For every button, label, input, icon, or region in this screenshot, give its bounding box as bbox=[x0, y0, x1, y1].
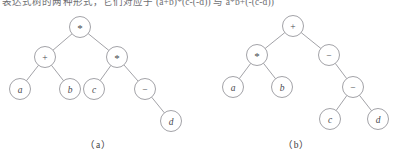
tree-edge bbox=[301, 33, 321, 49]
tree-node: d bbox=[161, 111, 182, 132]
tree-node-label: + bbox=[290, 22, 295, 32]
tree-node-label: − bbox=[326, 51, 331, 61]
tree-node: + bbox=[35, 47, 56, 68]
tree-node: * bbox=[247, 45, 268, 66]
tree-node: c bbox=[320, 109, 341, 130]
tree-node: a bbox=[223, 77, 244, 98]
figure-expression-trees: *+*abc−d （a） +*−ab−cd （b） bbox=[0, 7, 395, 162]
tree-diagram-a: *+*abc−d bbox=[0, 7, 197, 139]
tree-edge bbox=[124, 65, 138, 81]
tree-diagram-b: +*−ab−cd bbox=[198, 7, 395, 139]
tree-node-label: b bbox=[68, 85, 73, 95]
tree-node: a bbox=[10, 79, 31, 100]
tree-edge bbox=[263, 63, 275, 78]
tree-edge bbox=[152, 97, 165, 113]
tree-node-label: + bbox=[42, 53, 47, 63]
tree-node-label: * bbox=[254, 50, 260, 62]
tree-node-label: * bbox=[77, 22, 83, 34]
tree-node-label: d bbox=[169, 117, 174, 127]
tree-edge bbox=[336, 96, 347, 111]
tree-node: b bbox=[272, 77, 293, 98]
tree-node: b bbox=[60, 79, 81, 100]
tree-node: * bbox=[107, 47, 128, 68]
tree-edge bbox=[51, 65, 63, 80]
tree-node: − bbox=[135, 79, 156, 100]
tree-node: − bbox=[319, 45, 340, 66]
tree-edge bbox=[335, 63, 346, 78]
tree-edge bbox=[26, 65, 38, 80]
tree-edge bbox=[359, 95, 371, 110]
header-caption-text: 表达式树的两种形式，它们对应于 (a+b)*(c-(-d)) 与 a*b+(-(… bbox=[2, 0, 274, 7]
tree-node-label: d bbox=[376, 115, 381, 125]
tree-edge bbox=[53, 34, 72, 50]
tree-node-label: − bbox=[350, 83, 355, 93]
tree-node-label: a bbox=[231, 83, 236, 93]
tree-node: * bbox=[70, 17, 91, 38]
tree-node-label: * bbox=[114, 52, 120, 64]
tree-panel-a: *+*abc−d （a） bbox=[0, 7, 197, 162]
tree-node: d bbox=[368, 109, 389, 130]
tree-node-label: b bbox=[280, 83, 285, 93]
caption-a: （a） bbox=[0, 137, 197, 151]
tree-node: − bbox=[343, 77, 364, 98]
tree-edge bbox=[265, 33, 285, 49]
tree-node: + bbox=[283, 16, 304, 37]
tree-edge bbox=[100, 66, 111, 81]
tree-edge bbox=[239, 63, 250, 78]
tree-panel-b: +*−ab−cd （b） bbox=[198, 7, 395, 162]
caption-b: （b） bbox=[198, 137, 395, 151]
tree-node: c bbox=[84, 79, 105, 100]
tree-node-label: a bbox=[18, 85, 23, 95]
tree-node-label: − bbox=[142, 85, 147, 95]
header-text-strip: 表达式树的两种形式，它们对应于 (a+b)*(c-(-d)) 与 a*b+(-(… bbox=[0, 0, 395, 7]
tree-edge bbox=[88, 34, 109, 51]
